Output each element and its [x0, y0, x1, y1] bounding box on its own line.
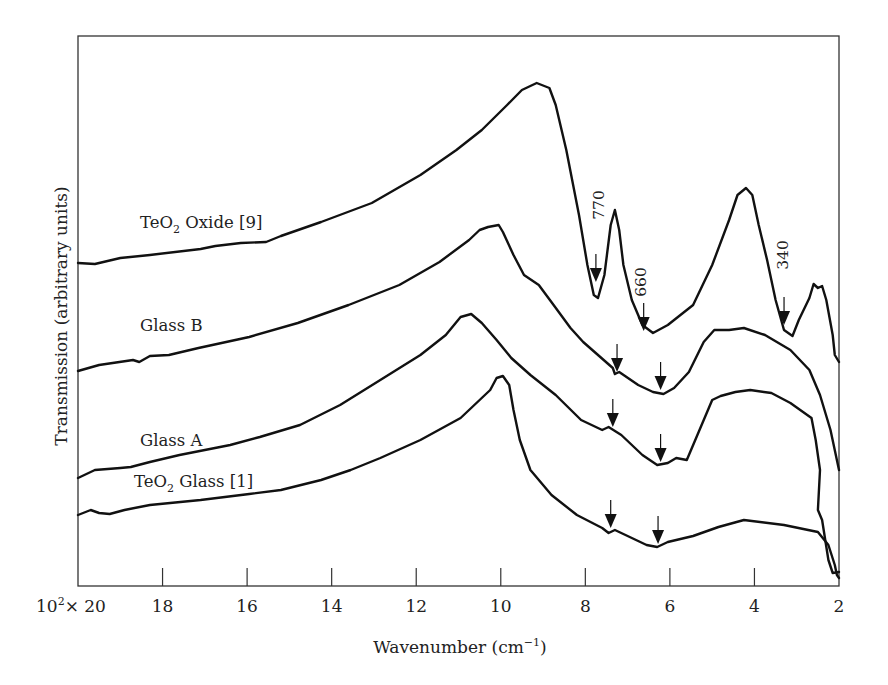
- arrow-head-icon: [652, 530, 664, 544]
- series-label-teo2-oxide: TeO2 Oxide [9]: [140, 213, 262, 236]
- series-label-teo2-glass: TeO2 Glass [1]: [134, 472, 253, 495]
- annotation-770: 770: [590, 190, 608, 220]
- arrow-head-icon: [655, 376, 667, 390]
- x-tick-label: 18: [152, 596, 174, 616]
- x-axis-tick-labels: 18161412108642: [152, 596, 845, 616]
- x-axis-title: Wavenumber (cm−1): [373, 636, 546, 657]
- x-tick-label: 14: [321, 596, 343, 616]
- plot-frame: [78, 36, 839, 586]
- x-tick-label: 16: [236, 596, 258, 616]
- x-axis-ticks: [163, 568, 755, 586]
- x-tick-label: 2: [834, 596, 845, 616]
- band-arrows: [590, 254, 790, 544]
- x-tick-label: 12: [405, 596, 427, 616]
- ir-spectrum-chart: 18161412108642 102× 20 Wavenumber (cm−1)…: [0, 0, 888, 685]
- x-tick-label-20: 102× 20: [36, 595, 106, 616]
- arrow-head-icon: [607, 413, 619, 427]
- series-label-glass-b: Glass B: [140, 316, 203, 335]
- x-tick-label: 8: [580, 596, 591, 616]
- arrow-head-icon: [605, 514, 617, 528]
- x-tick-label: 6: [664, 596, 675, 616]
- annotation-660: 660: [632, 267, 650, 297]
- series-label-glass-a: Glass A: [140, 431, 203, 450]
- y-axis-title: Transmission (arbitrary units): [51, 186, 71, 445]
- x-tick-label: 10: [490, 596, 512, 616]
- x-tick-label: 4: [749, 596, 760, 616]
- arrow-head-icon: [655, 448, 667, 462]
- annotation-340: 340: [774, 240, 792, 270]
